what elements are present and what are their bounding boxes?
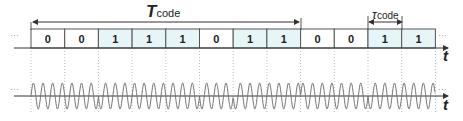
- bit-value: 1: [180, 33, 186, 45]
- bit-value: 0: [348, 33, 354, 45]
- bit-value: 1: [146, 33, 152, 45]
- tcode-sub: code: [156, 7, 180, 19]
- taucode-sub: code: [377, 10, 399, 21]
- axis-label-t-top: t: [443, 47, 448, 64]
- ellipsis-left-bottom: ···: [10, 84, 19, 94]
- ellipsis-left-top: ···: [10, 30, 19, 40]
- bit-value: 0: [45, 33, 51, 45]
- bit-value: 1: [281, 33, 287, 45]
- bit-value: 0: [78, 33, 84, 45]
- axis-label-t-bottom: t: [443, 96, 448, 113]
- ellipsis-right-top: ···: [438, 30, 447, 40]
- bit-boundary-gridlines: [31, 48, 435, 112]
- bit-value: 1: [382, 33, 388, 45]
- ellipsis-right-bottom: ···: [438, 84, 447, 94]
- phase-code-diagram: 001110110011 Tcode τcode t t ··· ··· ···…: [0, 0, 463, 121]
- bit-value: 1: [112, 33, 118, 45]
- taucode-label: τcode: [372, 7, 399, 22]
- code-bit-cells: 001110110011: [31, 29, 435, 48]
- tcode-label: Tcode: [146, 2, 180, 22]
- bit-value: 1: [415, 33, 421, 45]
- bit-value: 1: [247, 33, 253, 45]
- tcode-main: T: [146, 2, 156, 21]
- bit-value: 0: [213, 33, 219, 45]
- bit-value: 0: [314, 33, 320, 45]
